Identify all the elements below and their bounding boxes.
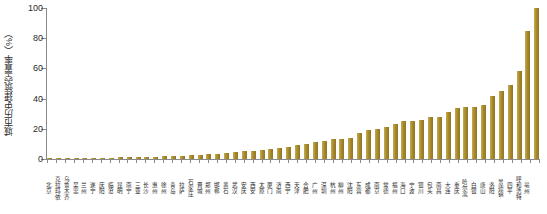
bar xyxy=(189,155,194,159)
x-axis-label: 白银 xyxy=(472,164,477,212)
bar xyxy=(304,144,309,159)
bar xyxy=(463,107,468,159)
x-tick-mark xyxy=(306,160,307,163)
x-tick-mark xyxy=(378,160,379,163)
x-axis-label: 沈阳 xyxy=(348,164,353,212)
x-tick-mark xyxy=(145,160,146,163)
bar xyxy=(393,124,398,159)
x-tick-mark xyxy=(467,160,468,163)
x-tick-mark xyxy=(387,160,388,163)
x-tick-mark xyxy=(512,160,513,163)
x-axis-label: 大连 xyxy=(446,164,451,212)
x-axis-label: 邯郸 xyxy=(215,164,220,212)
x-tick-mark xyxy=(172,160,173,163)
x-axis-label: 合肥 xyxy=(304,164,309,212)
x-tick-mark xyxy=(369,160,370,163)
bar xyxy=(366,130,371,159)
x-axis-label: 庆阳 xyxy=(100,164,105,212)
x-tick-mark xyxy=(324,160,325,163)
x-axis-label: 南京 xyxy=(375,164,380,212)
bar xyxy=(118,157,123,159)
x-axis-label: 乌鲁木齐 xyxy=(65,164,70,212)
x-tick-mark xyxy=(136,160,137,163)
x-tick-mark xyxy=(226,160,227,163)
bar xyxy=(428,117,433,159)
bar xyxy=(331,139,336,159)
x-tick-mark xyxy=(530,160,531,163)
x-tick-mark xyxy=(47,160,48,163)
x-tick-mark xyxy=(163,160,164,163)
x-axis-label: 济南 xyxy=(277,164,282,212)
x-axis-label: 哈尔滨 xyxy=(463,164,468,212)
x-axis-label: 唐山 xyxy=(481,164,486,212)
x-axis-label: 深圳 xyxy=(322,164,327,212)
bar xyxy=(437,117,442,159)
x-axis-label: 四平 xyxy=(508,164,513,212)
bar xyxy=(260,150,265,159)
x-axis-label: 徐州 xyxy=(162,164,167,212)
x-axis-label: 青岛 xyxy=(171,164,176,212)
x-axis-label: 长沙 xyxy=(144,164,149,212)
x-tick-mark xyxy=(405,160,406,163)
x-tick-layer xyxy=(47,160,540,163)
x-tick-mark xyxy=(458,160,459,163)
bar xyxy=(215,154,220,159)
bar xyxy=(109,158,114,160)
bar xyxy=(410,121,415,160)
x-tick-mark xyxy=(181,160,182,163)
bar xyxy=(286,147,291,159)
y-tick-label: 0 xyxy=(38,155,43,164)
x-axis-label: 北京 xyxy=(47,164,52,212)
x-tick-mark xyxy=(74,160,75,163)
bar xyxy=(322,141,327,159)
x-axis-label: 西宁 xyxy=(286,164,291,212)
bar xyxy=(74,158,79,159)
bar xyxy=(91,158,96,159)
x-axis-label: 成都 xyxy=(366,164,371,212)
bar xyxy=(242,151,247,159)
y-axis-title: 城市历史建筑空置率（%） xyxy=(2,6,15,158)
x-tick-mark xyxy=(440,160,441,163)
x-tick-mark xyxy=(217,160,218,163)
x-tick-mark xyxy=(503,160,504,163)
x-axis-label: 银川 xyxy=(419,164,424,212)
y-tick-label: 80 xyxy=(33,34,43,43)
x-axis-label: 广州 xyxy=(313,164,318,212)
x-tick-mark xyxy=(539,160,540,163)
bar xyxy=(525,31,530,159)
bar xyxy=(56,158,61,159)
x-axis-label: 昆明 xyxy=(118,164,123,212)
x-axis-label: 石家庄 xyxy=(189,164,194,212)
x-axis-label: 洛阳 xyxy=(490,164,495,212)
x-tick-mark xyxy=(431,160,432,163)
x-axis-label xyxy=(534,164,539,212)
bar xyxy=(144,157,149,159)
x-axis-label: 宁波 xyxy=(410,164,415,212)
bar xyxy=(206,154,211,159)
x-tick-mark xyxy=(270,160,271,163)
x-tick-mark xyxy=(199,160,200,163)
x-tick-mark xyxy=(92,160,93,163)
x-tick-mark xyxy=(190,160,191,163)
x-axis-label: 福州 xyxy=(393,164,398,212)
x-axis-label: 郑州 xyxy=(206,164,211,212)
x-tick-mark xyxy=(333,160,334,163)
x-axis-label: 晋城 xyxy=(198,164,203,212)
x-tick-mark xyxy=(297,160,298,163)
plot-area: 020406080100 xyxy=(46,8,540,160)
bar-series xyxy=(47,8,540,159)
x-tick-mark xyxy=(208,160,209,163)
x-tick-mark xyxy=(56,160,57,163)
x-axis-label: 天津 xyxy=(295,164,300,212)
x-axis-label: 吴忠 xyxy=(74,164,79,212)
x-axis-label: 海口 xyxy=(401,164,406,212)
bar xyxy=(153,157,158,159)
y-tick-label: 100 xyxy=(28,4,43,13)
x-tick-mark xyxy=(360,160,361,163)
x-tick-mark xyxy=(422,160,423,163)
x-axis-label: 杭州 xyxy=(331,164,336,212)
x-axis-label: 遂宁 xyxy=(91,164,96,212)
bar xyxy=(136,157,141,159)
x-axis-label: 呼和浩特 xyxy=(517,164,522,212)
x-tick-mark xyxy=(315,160,316,163)
